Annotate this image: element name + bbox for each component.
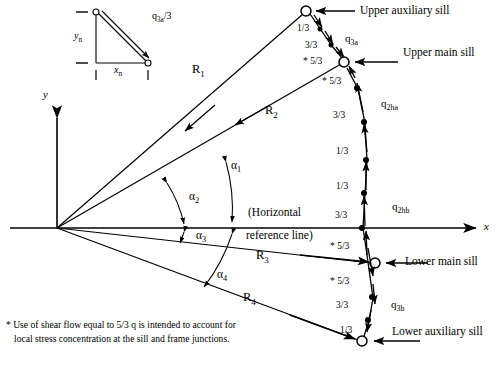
footnote-line-1: * Use of shear flow equal to 5/3 q is in… (6, 319, 236, 332)
fraction-label-mid-3: 1/3 (336, 146, 348, 156)
inset-x-label: xn (114, 64, 122, 78)
fraction-label-lower-1: * 5/3 (330, 241, 349, 251)
shear-flow-label-q3a: q3a (345, 32, 358, 47)
upper-main-sill-node (339, 57, 349, 67)
ray-label-R2: R2 (265, 103, 278, 120)
inset-flow-label: q3a/3 (152, 10, 172, 24)
sill-label-upper-main: Upper main sill (403, 46, 475, 58)
shear-flow-label-q2hb: q2hb (392, 200, 409, 215)
shear-flow-label-q3b: q3b (391, 298, 404, 313)
upper-auxiliary-sill-node (301, 6, 311, 16)
fraction-label-upper-1: 1/3 (297, 23, 309, 33)
y-axis-label: y (43, 88, 48, 100)
horizontal-reference-line-2: reference line) (246, 229, 313, 242)
fraction-label-mid-1: * 5/3 (322, 76, 341, 86)
footnote-line-2: local stress concentration at the sill a… (14, 333, 230, 346)
figure-canvas: yn xn q3a/3 x y (Horizontal reference li… (0, 0, 503, 365)
angle-label-alpha-3: α3 (196, 229, 206, 244)
angle-label-alpha-1: α1 (231, 159, 241, 174)
x-axis-label: x (484, 220, 489, 232)
lower-auxiliary-sill-node (357, 336, 367, 346)
fraction-label-lower-3: 3/3 (336, 300, 348, 310)
fraction-label-lower-2: * 5/3 (330, 276, 349, 286)
fraction-label-lower-4: 1/3 (340, 325, 352, 335)
sill-label-lower-main: Lower main sill (405, 255, 478, 267)
fraction-label-upper-3: * 5/3 (303, 56, 322, 66)
fraction-label-upper-2: 3/3 (305, 40, 317, 50)
ray-label-R4: R4 (243, 290, 256, 307)
horizontal-reference-line-1: (Horizontal (248, 206, 301, 219)
ray-label-R1: R1 (192, 62, 205, 79)
angle-arc-alpha-2 (167, 183, 184, 224)
angle-label-alpha-4: α4 (217, 268, 227, 283)
sill-label-lower-auxiliary: Lower auxiliary sill (392, 325, 483, 337)
fraction-label-mid-2: 3/3 (333, 110, 345, 120)
shear-flow-label-q2ha: q2ha (381, 97, 398, 112)
ray-label-R3: R3 (256, 248, 269, 265)
inset-y-label: yn (74, 30, 82, 44)
angle-label-alpha-2: α2 (189, 190, 199, 205)
fraction-label-mid-4: 1/3 (336, 181, 348, 191)
fraction-label-mid-5: 3/3 (335, 210, 347, 220)
sill-label-upper-auxiliary: Upper auxiliary sill (360, 4, 449, 16)
